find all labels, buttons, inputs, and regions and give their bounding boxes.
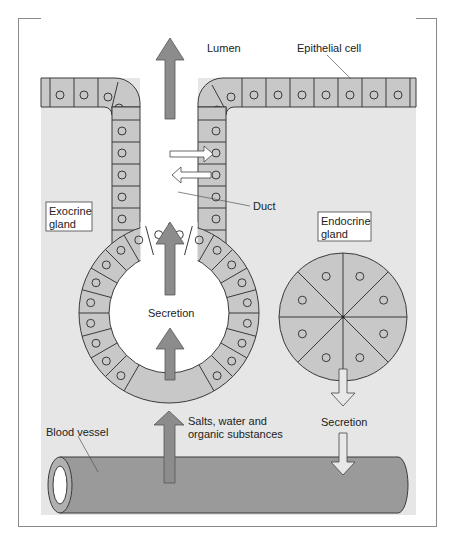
salts-label-line1: Salts, water and — [188, 415, 267, 427]
duct-label: Duct — [253, 200, 276, 212]
endocrine-gland — [279, 253, 407, 381]
exocrine-label-line1: Exocrine — [49, 205, 92, 217]
endocrine-label-line2: gland — [321, 228, 348, 240]
exocrine-label-line2: gland — [49, 218, 76, 230]
secretion-endocrine-label: Secretion — [321, 416, 367, 428]
gland-diagram: Lumen Epithelial cell Duct Exocrine glan… — [0, 0, 450, 547]
secretion-exocrine-label: Secretion — [148, 307, 194, 319]
endocrine-label-line1: Endocrine — [321, 215, 371, 227]
blood-vessel-label: Blood vessel — [46, 426, 108, 438]
epithelial-cell-label: Epithelial cell — [297, 42, 361, 54]
blood-vessel — [48, 457, 408, 513]
lumen-label: Lumen — [207, 42, 241, 54]
salts-label-line2: organic substances — [188, 428, 283, 440]
